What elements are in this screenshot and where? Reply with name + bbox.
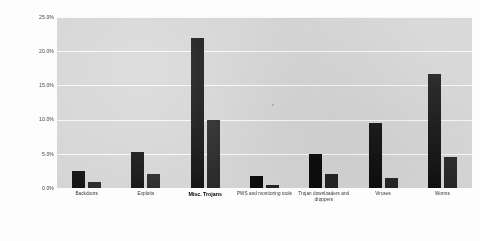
bar <box>131 152 144 188</box>
x-axis-label-3: PWS and monitoring tools <box>231 191 298 197</box>
scan-artifact-speck <box>272 104 274 106</box>
bar-group <box>428 17 457 188</box>
bar-group <box>309 17 338 188</box>
y-axis-tick-1: 20.0% <box>20 48 54 54</box>
bar-group <box>250 17 279 188</box>
bar-chart-figure: Percent of reporting computers 25.0%20.0… <box>0 0 480 241</box>
bar <box>250 176 263 188</box>
y-axis-tick-4: 5.0% <box>20 151 54 157</box>
y-axis-tick-0: 25.0% <box>20 14 54 20</box>
x-axis-label-2: Misc. Trojans <box>172 191 239 197</box>
x-axis-category-labels: BackdoorsExploitsMisc. TrojansPWS and mo… <box>57 191 472 239</box>
bar <box>385 178 398 188</box>
bar <box>325 174 338 188</box>
bar-group <box>191 17 220 188</box>
bar <box>191 38 204 188</box>
bar-group <box>131 17 160 188</box>
x-axis-label-1: Exploits <box>112 191 179 197</box>
bar <box>72 171 85 188</box>
bar <box>88 182 101 188</box>
bar <box>428 74 441 188</box>
y-axis-tick-5: 0.0% <box>20 185 54 191</box>
bar <box>444 157 457 188</box>
x-axis-label-4: Trojan downloaders and droppers <box>290 191 357 203</box>
y-axis-tick-2: 15.0% <box>20 82 54 88</box>
bar <box>266 185 279 188</box>
x-axis-label-0: Backdoors <box>53 191 120 197</box>
bar <box>147 174 160 188</box>
x-axis-label-5: Viruses <box>349 191 416 197</box>
x-axis-label-6: Worms <box>409 191 476 197</box>
bars-layer <box>57 17 472 188</box>
bar <box>207 120 220 188</box>
bar-group <box>72 17 101 188</box>
y-axis-tick-labels: 25.0%20.0%15.0%10.0%5.0%0.0% <box>20 0 56 241</box>
plot-area <box>57 17 472 188</box>
bar <box>309 154 322 188</box>
y-axis-tick-3: 10.0% <box>20 116 54 122</box>
bar-group <box>369 17 398 188</box>
bar <box>369 123 382 188</box>
